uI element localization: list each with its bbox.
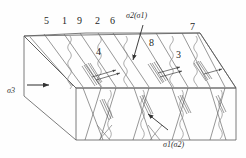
left-face-edge [24,36,76,140]
feature-label-6: 6 [110,16,115,26]
stress-label-sigma2-sigma1: σ2(σ1) [126,12,147,20]
sigma2-callout-arrow [133,25,143,60]
feature-label-7: 7 [190,22,195,32]
internal-callout-arrow [148,114,168,130]
feature-label-2: 2 [95,16,100,26]
feature-label-3: 3 [176,50,181,60]
block-diagram-svg [0,0,246,158]
feature-label-8: 8 [149,38,154,48]
top-face-edge [24,33,236,88]
feature-label-1: 1 [62,16,67,26]
front-face-wavy-cracks [108,90,223,139]
front-face-fractures [83,88,226,140]
feature-label-4: 4 [96,47,101,57]
feature-label-9: 9 [77,16,82,26]
stress-label-sigma3: σ3 [7,87,15,95]
feature-label-5: 5 [44,16,49,26]
bottom-crossing-traces [97,125,162,140]
figure-container: 5 1 9 2 6 4 8 7 3 σ3 σ2(σ1) σ1(σ2) [0,0,246,158]
top-shear-band-cluster-2 [148,61,168,84]
block-outline [24,33,236,140]
top-face-fractures [30,33,225,87]
top-shear-band-cluster-3 [194,61,212,81]
stress-label-sigma1-sigma2: σ1(σ2) [163,141,184,149]
